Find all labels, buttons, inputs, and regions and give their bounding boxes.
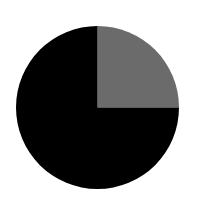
pie-chart-canvas bbox=[0, 0, 197, 200]
pie-slice-slice-a bbox=[98, 26, 180, 108]
pie-chart bbox=[0, 0, 197, 200]
